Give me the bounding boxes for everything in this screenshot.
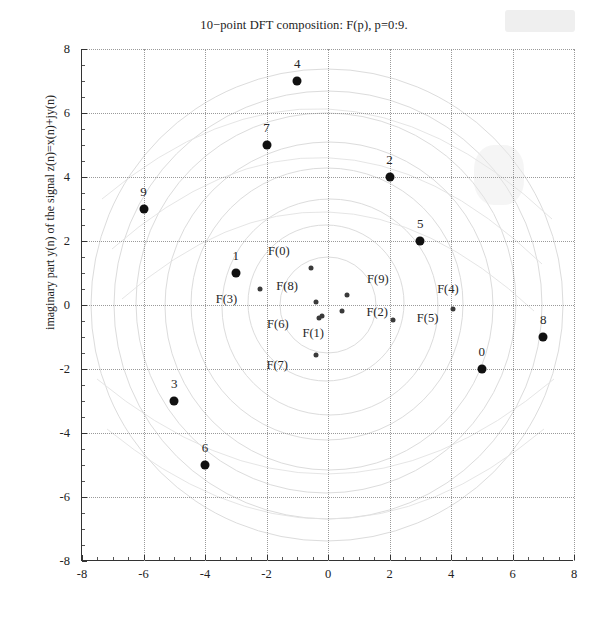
y-minor-tick bbox=[82, 129, 85, 130]
dft-coefficient-label: F(3) bbox=[216, 291, 238, 306]
y-minor-tick bbox=[82, 529, 85, 530]
y-axis-label: imaginary part y(n) of the signal z(n)=x… bbox=[43, 38, 58, 388]
dft-coefficient-marker bbox=[450, 306, 455, 311]
x-tick bbox=[144, 555, 145, 560]
sample-point-label: 7 bbox=[263, 120, 270, 136]
y-tick bbox=[82, 177, 87, 178]
y-gridline bbox=[82, 49, 574, 50]
y-minor-tick bbox=[82, 65, 85, 66]
x-tick-label: -4 bbox=[200, 567, 210, 582]
sample-point-marker bbox=[385, 173, 394, 182]
x-minor-tick bbox=[343, 557, 344, 560]
sample-point-marker bbox=[262, 141, 271, 150]
dft-coefficient-label: F(2) bbox=[366, 305, 388, 320]
x-gridline bbox=[513, 49, 514, 561]
plot-area: -8-6-4-202468-8-6-4-2024680123456789F(0)… bbox=[81, 49, 573, 561]
y-minor-tick bbox=[82, 257, 85, 258]
x-gridline bbox=[205, 49, 206, 561]
x-minor-tick bbox=[543, 557, 544, 560]
y-tick-label: 6 bbox=[64, 106, 70, 121]
x-minor-tick bbox=[497, 557, 498, 560]
x-tick bbox=[390, 555, 391, 560]
dft-coefficient-marker bbox=[313, 352, 318, 357]
sample-point-label: 8 bbox=[540, 312, 547, 328]
y-tick bbox=[82, 369, 87, 370]
dft-coefficient-marker bbox=[391, 318, 396, 323]
x-minor-tick bbox=[236, 557, 237, 560]
y-minor-tick bbox=[82, 225, 85, 226]
x-tick-label: -8 bbox=[77, 567, 87, 582]
y-minor-tick bbox=[82, 513, 85, 514]
x-minor-tick bbox=[482, 557, 483, 560]
x-minor-tick bbox=[374, 557, 375, 560]
x-minor-tick bbox=[559, 557, 560, 560]
y-minor-tick bbox=[82, 449, 85, 450]
x-tick-label: 0 bbox=[325, 567, 331, 582]
x-minor-tick bbox=[128, 557, 129, 560]
y-tick bbox=[82, 561, 87, 562]
x-minor-tick bbox=[420, 557, 421, 560]
y-tick bbox=[82, 241, 87, 242]
sample-point-label: 6 bbox=[202, 440, 209, 456]
sample-point-label: 9 bbox=[140, 184, 147, 200]
x-tick-label: 2 bbox=[386, 567, 392, 582]
sample-point-marker bbox=[539, 333, 548, 342]
dft-coefficient-marker bbox=[309, 266, 314, 271]
dft-coefficient-label: F(6) bbox=[267, 317, 289, 332]
y-tick bbox=[82, 433, 87, 434]
y-tick bbox=[82, 49, 87, 50]
sample-point-label: 5 bbox=[417, 216, 424, 232]
y-gridline bbox=[82, 369, 574, 370]
sample-point-label: 2 bbox=[386, 152, 393, 168]
y-minor-tick bbox=[82, 545, 85, 546]
x-minor-tick bbox=[159, 557, 160, 560]
y-minor-tick bbox=[82, 161, 85, 162]
y-tick bbox=[82, 113, 87, 114]
sample-point-marker bbox=[201, 461, 210, 470]
x-gridline bbox=[390, 49, 391, 561]
sample-point-marker bbox=[170, 397, 179, 406]
x-tick-label: 4 bbox=[448, 567, 454, 582]
x-tick bbox=[513, 555, 514, 560]
sample-point-marker bbox=[416, 237, 425, 246]
y-tick-label: -4 bbox=[60, 426, 70, 441]
y-tick-label: 8 bbox=[64, 42, 70, 57]
dft-composition-figure: 10−point DFT composition: F(p), p=0:9. i… bbox=[0, 0, 608, 620]
dft-coefficient-marker bbox=[339, 309, 344, 314]
x-gridline bbox=[328, 49, 329, 561]
y-gridline bbox=[82, 305, 574, 306]
y-minor-tick bbox=[82, 353, 85, 354]
sample-point-label: 0 bbox=[479, 344, 486, 360]
x-minor-tick bbox=[174, 557, 175, 560]
dft-coefficient-label: F(9) bbox=[367, 271, 389, 286]
dft-coefficient-marker bbox=[314, 300, 319, 305]
y-minor-tick bbox=[82, 385, 85, 386]
x-minor-tick bbox=[282, 557, 283, 560]
y-minor-tick bbox=[82, 417, 85, 418]
y-minor-tick bbox=[82, 465, 85, 466]
y-minor-tick bbox=[82, 193, 85, 194]
y-minor-tick bbox=[82, 321, 85, 322]
y-gridline bbox=[82, 241, 574, 242]
x-minor-tick bbox=[436, 557, 437, 560]
x-tick bbox=[451, 555, 452, 560]
y-tick-label: 2 bbox=[64, 234, 70, 249]
scan-artifact-top-right bbox=[505, 10, 575, 32]
y-gridline bbox=[82, 113, 574, 114]
x-gridline bbox=[144, 49, 145, 561]
dft-coefficient-label: F(0) bbox=[268, 243, 290, 258]
x-tick bbox=[205, 555, 206, 560]
x-tick bbox=[328, 555, 329, 560]
y-minor-tick bbox=[82, 145, 85, 146]
x-tick bbox=[574, 555, 575, 560]
sample-point-marker bbox=[477, 365, 486, 374]
x-minor-tick bbox=[359, 557, 360, 560]
sample-point-marker bbox=[139, 205, 148, 214]
dft-coefficient-label: F(7) bbox=[266, 358, 288, 373]
sample-point-label: 4 bbox=[294, 56, 301, 72]
x-minor-tick bbox=[113, 557, 114, 560]
dft-coefficient-marker bbox=[345, 292, 350, 297]
x-tick-label: 8 bbox=[571, 567, 577, 582]
y-tick-label: -8 bbox=[60, 554, 70, 569]
x-tick bbox=[82, 555, 83, 560]
